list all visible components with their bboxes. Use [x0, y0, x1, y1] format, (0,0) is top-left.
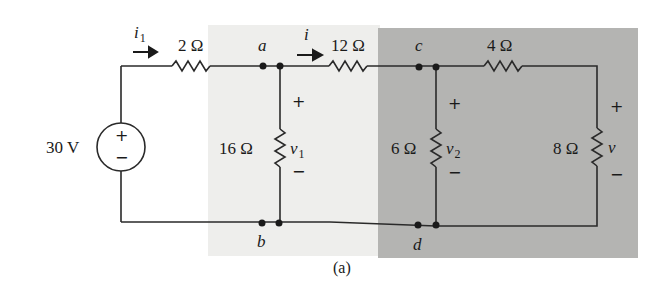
- junction-dot: [433, 222, 440, 229]
- circuit-diagram: i1 i 2 Ω 12 Ω 4 Ω 16 Ω 6 Ω 8 Ω a b c d 3…: [0, 0, 668, 292]
- node-a-label: a: [258, 37, 267, 54]
- node-d-dot: [415, 222, 422, 229]
- resistor-4ohm-label: 4 Ω: [487, 37, 512, 54]
- node-b-label: b: [257, 233, 266, 250]
- source-voltage-label: 30 V: [46, 139, 79, 156]
- source-plus-sign: +: [115, 128, 128, 144]
- node-b-dot: [259, 220, 266, 227]
- v1-label: v1: [290, 140, 305, 157]
- v-plus-sign: +: [610, 99, 623, 115]
- resistor-6ohm-label: 6 Ω: [391, 140, 416, 157]
- resistor-8ohm-label: 8 Ω: [553, 140, 578, 157]
- resistor-16ohm-label: 16 Ω: [219, 140, 253, 157]
- source-minus-sign: −: [115, 150, 128, 166]
- v2-plus-sign: +: [448, 96, 461, 112]
- resistor-12ohm-label: 12 Ω: [331, 37, 365, 54]
- v-minus-sign: −: [610, 167, 623, 183]
- current-i1-label: i1: [134, 24, 146, 41]
- current-i-label: i: [304, 26, 309, 43]
- resistor-2ohm: [172, 61, 210, 71]
- v-label: v: [608, 139, 616, 156]
- arrowhead: [149, 47, 157, 57]
- node-a-dot: [260, 63, 267, 70]
- junction-dot: [276, 220, 283, 227]
- v1-minus-sign: −: [292, 164, 305, 180]
- v1-plus-sign: +: [292, 94, 305, 110]
- v2-minus-sign: −: [448, 165, 461, 181]
- junction-dot: [277, 63, 284, 70]
- v2-label: v2: [446, 140, 461, 157]
- resistor-2ohm-label: 2 Ω: [178, 37, 203, 54]
- node-c-dot: [416, 64, 423, 71]
- node-d-label: d: [413, 236, 422, 253]
- junction-dot: [433, 64, 440, 71]
- node-c-label: c: [415, 37, 423, 54]
- figure-caption: (a): [333, 260, 351, 276]
